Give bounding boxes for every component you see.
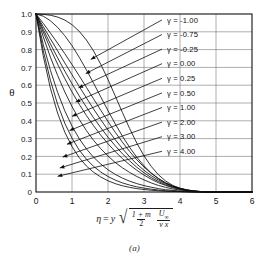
y-tick-label: 1.0 (21, 10, 33, 19)
y-tick-label: 0.3 (21, 135, 33, 144)
y-tick-label: 0.9 (21, 28, 33, 37)
fraction-one-plus-m-over-two: 1 + m 2 (130, 211, 153, 229)
legend-entry-label: γ = 1.00 (167, 103, 195, 112)
x-tick-label: 1 (70, 196, 75, 206)
figure-container: 00.10.20.30.40.50.60.70.80.91.00123456θγ… (0, 0, 269, 267)
legend-entry-label: γ = -0.75 (167, 30, 198, 39)
legend-entry-label: γ = 0.50 (167, 89, 195, 98)
x-tick-label: 2 (106, 196, 111, 206)
x-tick-label: 5 (214, 196, 219, 206)
equals-sign: = (103, 213, 109, 224)
y-tick-label: 0.8 (21, 46, 33, 55)
x-axis-equation-label: η = y √ 1 + m 2 U∞ ν x (0, 208, 269, 229)
y-tick-label: 0.4 (21, 117, 33, 126)
fraction-numerator-left: 1 + m (130, 211, 153, 219)
fraction-denominator-right: ν x (157, 220, 170, 229)
fraction-numerator-right: U∞ (157, 210, 171, 220)
y-tick-label: 0.5 (21, 99, 33, 108)
y-tick-label: 0.7 (21, 64, 33, 73)
u-subscript: ∞ (165, 214, 169, 220)
legend-entry-label: γ = 0.25 (167, 74, 195, 83)
x-tick-label: 0 (34, 196, 39, 206)
legend-entry-label: γ = -1.00 (167, 16, 198, 25)
eta-symbol: η (96, 213, 101, 224)
y-axis-title: θ (9, 86, 14, 98)
legend-entry-label: γ = 2.00 (167, 118, 195, 127)
x-tick-label: 3 (142, 196, 147, 206)
fraction-denominator-left: 2 (137, 219, 145, 228)
y-tick-label: 0.6 (21, 81, 33, 90)
x-tick-label: 4 (178, 196, 183, 206)
square-root-group: √ 1 + m 2 U∞ ν x (118, 208, 173, 229)
y-symbol: y (111, 213, 115, 224)
figure-caption: (a) (0, 243, 269, 253)
y-tick-label: 0 (28, 188, 33, 197)
legend-entry-label: γ = 4.00 (167, 147, 195, 156)
fraction-uinf-over-nu-x: U∞ ν x (157, 210, 171, 229)
y-tick-label: 0.1 (21, 170, 33, 179)
legend-entry-label: γ = 0.00 (167, 59, 195, 68)
x-tick-label: 6 (250, 196, 255, 206)
legend-entry-label: γ = -0.25 (167, 45, 198, 54)
radical-sign: √ (119, 207, 127, 228)
legend-entry-label: γ = 3.00 (167, 132, 195, 141)
y-tick-label: 0.2 (21, 153, 33, 162)
